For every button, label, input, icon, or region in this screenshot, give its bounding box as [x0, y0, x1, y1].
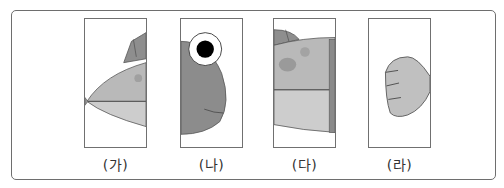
panel-ga: [84, 18, 147, 148]
panel-label-na: (나): [180, 154, 243, 174]
panel-label-ra: (라): [368, 154, 431, 174]
panel-label-ga: (가): [84, 154, 147, 174]
fish-mouth-piece-illustration: [85, 19, 146, 147]
fish-tail-piece-illustration: [369, 19, 430, 147]
panel-label-da: (다): [273, 154, 336, 174]
panel-ra: [368, 18, 431, 148]
fish-eye-piece-illustration: [181, 19, 242, 147]
panel-na: [180, 18, 243, 148]
panel-da: [273, 18, 336, 148]
fish-body-piece-illustration: [274, 19, 335, 147]
